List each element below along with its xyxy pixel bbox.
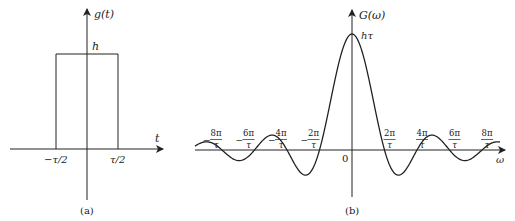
svg-text:4π: 4π [276, 128, 287, 138]
svg-text:τ: τ [420, 140, 425, 150]
tick-label: −4πτ [268, 128, 287, 150]
tick-label: 8πτ [481, 128, 493, 150]
svg-text:8π: 8π [211, 128, 222, 138]
svg-text:τ: τ [311, 140, 316, 150]
svg-text:τ: τ [279, 140, 284, 150]
svg-text:τ: τ [246, 140, 251, 150]
svg-text:τ: τ [452, 140, 457, 150]
tick-label: 4πτ [416, 128, 428, 150]
origin-label: 0 [342, 153, 348, 164]
svg-text:2π: 2π [308, 128, 319, 138]
tick-label: 6πτ [449, 128, 461, 150]
pos-half-tau-label: τ/2 [110, 154, 125, 165]
svg-text:τ: τ [485, 140, 490, 150]
omega-tick-labels: −8πτ−6πτ−4πτ−2πτ2πτ4πτ6πτ8πτ [203, 128, 493, 150]
svg-text:τ: τ [387, 140, 392, 150]
svg-text:6π: 6π [243, 128, 254, 138]
svg-text:−: − [268, 135, 276, 145]
diagram-canvas: g(t) t h −τ/2 τ/2 (a) G(ω) hτ 0 ω (b) −8… [0, 0, 515, 221]
G-axis-label: G(ω) [359, 9, 385, 22]
svg-text:τ: τ [214, 140, 219, 150]
peak-label: hτ [361, 30, 373, 41]
tick-label: −8πτ [203, 128, 222, 150]
tick-label: 2πτ [384, 128, 396, 150]
svg-text:−: − [301, 135, 309, 145]
t-axis-label: t [155, 132, 160, 145]
height-label: h [92, 40, 99, 53]
omega-axis-label: ω [496, 154, 504, 165]
caption-a: (a) [80, 205, 94, 216]
svg-text:−: − [236, 135, 244, 145]
svg-text:−: − [203, 135, 211, 145]
figure-b-sinc-spectrum: G(ω) hτ 0 ω (b) −8πτ−6πτ−4πτ−2πτ2πτ4πτ6π… [195, 9, 505, 216]
caption-b: (b) [345, 205, 359, 216]
tick-label: −6πτ [236, 128, 255, 150]
svg-text:6π: 6π [449, 128, 460, 138]
svg-text:8π: 8π [482, 128, 493, 138]
neg-half-tau-label: −τ/2 [44, 154, 68, 165]
svg-text:2π: 2π [384, 128, 395, 138]
svg-text:4π: 4π [417, 128, 428, 138]
tick-label: −2πτ [301, 128, 320, 150]
g-axis-label: g(t) [94, 8, 114, 21]
figure-a-rect-pulse: g(t) t h −τ/2 τ/2 (a) [10, 8, 163, 216]
